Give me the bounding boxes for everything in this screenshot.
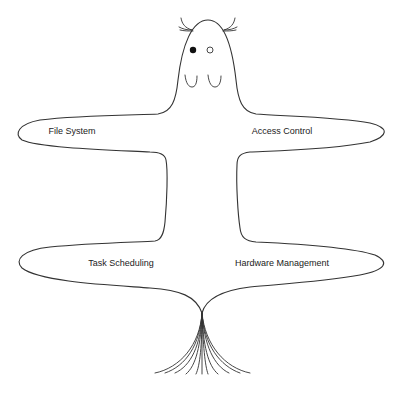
ear-left-icon	[179, 18, 193, 31]
label-access-control: Access Control	[252, 126, 313, 136]
cheek-right-icon	[208, 75, 221, 87]
label-hardware-management: Hardware Management	[235, 258, 329, 268]
label-file-system: File System	[48, 126, 95, 136]
label-task-scheduling: Task Scheduling	[88, 258, 154, 268]
tail-fan-icon	[155, 313, 250, 374]
eye-filled-icon	[190, 47, 196, 53]
body-outline	[18, 20, 384, 313]
eye-hollow-icon	[207, 47, 213, 53]
cheek-left-icon	[185, 75, 197, 87]
diagram-canvas	[0, 0, 400, 396]
ear-right-icon	[223, 18, 237, 31]
